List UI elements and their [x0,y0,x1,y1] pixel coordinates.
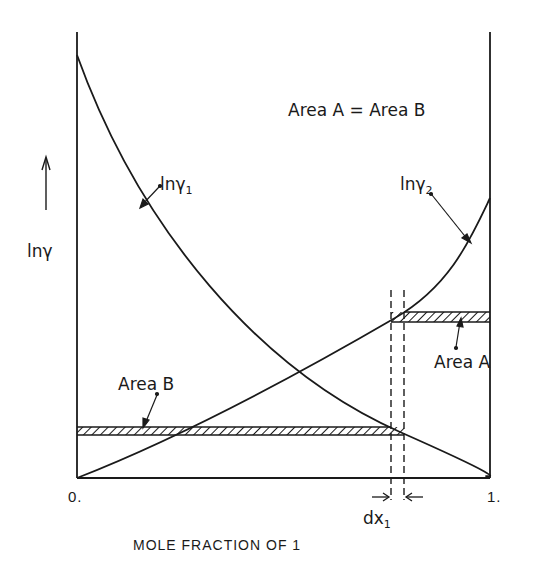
dx-subscript: 1 [384,518,391,531]
curve-2-label-text: lnγ [400,174,426,194]
curve-2-label: lnγ2 [400,174,433,197]
x-tick-zero: 0. [68,488,83,505]
activity-coefficient-diagram: Area A = Area B lnγ lnγ1 lnγ2 Area A Are… [0,0,551,575]
ln-gamma-1-curve [77,55,490,478]
area-b-label: Area B [118,374,174,394]
curve-1-label: lnγ1 [160,174,193,197]
x-tick-one: 1. [487,488,502,505]
area-a-band [391,312,490,322]
dx-arrows [372,493,423,501]
y-axis-up-arrow [42,157,50,210]
curve-1-label-text: lnγ [160,174,186,194]
area-a-label: Area A [434,352,491,372]
curve-1-subscript: 1 [186,184,193,197]
area-b-band [77,427,404,435]
plot-frame [77,32,490,478]
x-axis-label: MOLE FRACTION OF 1 [133,537,301,553]
label-pointers [140,185,471,429]
curve-2-subscript: 2 [426,184,433,197]
dx-label-text: dx [363,508,384,528]
dx-label: dx1 [363,508,391,531]
area-equality-annotation: Area A = Area B [288,100,425,120]
ln-gamma-2-curve [77,198,490,478]
y-axis-label: lnγ [27,241,53,261]
